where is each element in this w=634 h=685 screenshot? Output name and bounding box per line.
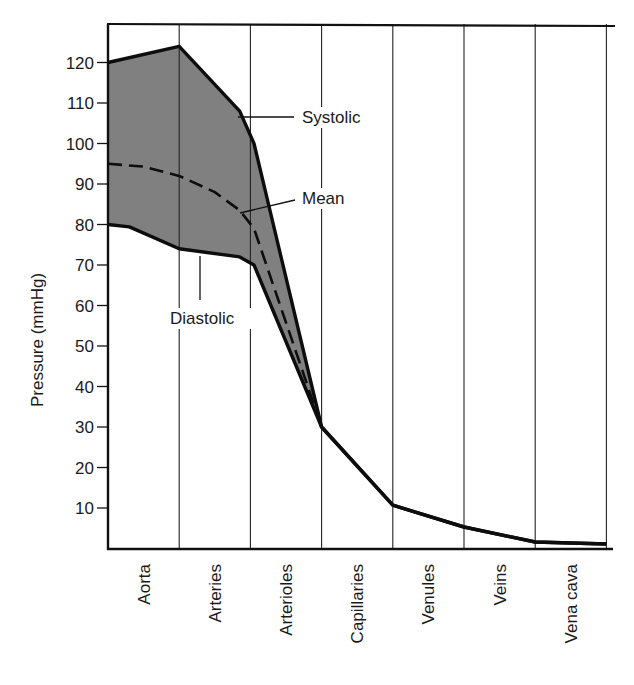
y-tick-label: 90 xyxy=(75,175,94,194)
y-tick-label: 70 xyxy=(75,256,94,275)
x-category-label: Vena cava xyxy=(562,563,581,643)
y-tick-label: 40 xyxy=(75,378,94,397)
y-tick-label: 30 xyxy=(75,418,94,437)
top-border-line xyxy=(107,24,615,26)
y-tick-label: 20 xyxy=(75,459,94,478)
shaded-region xyxy=(108,46,322,427)
x-category-label: Aorta xyxy=(135,563,154,604)
x-axis-category-labels: AortaArteriesArteriolesCapillariesVenule… xyxy=(135,563,581,643)
y-tick-label: 100 xyxy=(66,135,94,154)
x-category-label: Veins xyxy=(491,564,510,606)
y-tick-label: 80 xyxy=(75,216,94,235)
x-category-label: Venules xyxy=(419,564,438,625)
x-category-label: Capillaries xyxy=(348,564,367,643)
y-tick-label: 120 xyxy=(66,54,94,73)
y-axis-ticks: 102030405060708090100110120 xyxy=(66,54,108,519)
y-axis-title: Pressure (mmHg) xyxy=(28,273,47,407)
blood-pressure-chart: SystolicMeanDiastolic 102030405060708090… xyxy=(0,0,634,685)
y-tick-label: 50 xyxy=(75,337,94,356)
y-tick-label: 60 xyxy=(75,297,94,316)
y-tick-label: 10 xyxy=(75,499,94,518)
pulse-pressure-fill xyxy=(108,46,322,427)
mean-label: Mean xyxy=(302,189,345,208)
x-category-label: Arteries xyxy=(206,564,225,623)
y-tick-label: 110 xyxy=(67,94,94,113)
x-category-label: Arterioles xyxy=(277,564,296,636)
vessel-segment-gridlines xyxy=(179,24,606,550)
systolic-label: Systolic xyxy=(302,108,361,127)
diastolic-label: Diastolic xyxy=(170,309,235,328)
diastolic-line xyxy=(108,225,606,545)
